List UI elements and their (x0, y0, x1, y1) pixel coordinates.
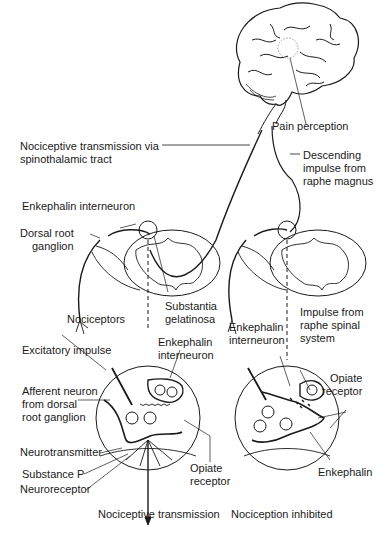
label-descending-1: Descending (303, 149, 361, 162)
synapse-right (235, 366, 339, 470)
label-nociceptive-tract-1: Nociceptive transmission via (20, 140, 159, 153)
label-substantia-2: gelatinosa (165, 313, 215, 326)
label-descending-3: raphe magnus (303, 175, 373, 188)
label-pain-perception: Pain perception (272, 120, 348, 133)
label-dorsal-root-2: ganglion (32, 240, 74, 253)
label-substance-p: Substance P (22, 468, 84, 481)
label-raphe-spinal-3: system (300, 332, 335, 345)
label-opiate-left-2: receptor (190, 475, 230, 488)
label-substantia-1: Substantia (165, 300, 217, 313)
label-enkephalin-left-2: interneuron (158, 349, 214, 362)
label-opiate-right-2: receptor (322, 385, 362, 398)
label-nociceptive-tract-2: spinothalamic tract (20, 153, 112, 166)
label-afferent-3: root ganglion (22, 411, 86, 424)
synapse-left (96, 366, 200, 525)
label-excitatory-impulse: Excitatory impulse (22, 344, 111, 357)
label-descending-2: impulse from (303, 162, 366, 175)
label-afferent-2: from dorsal (22, 398, 77, 411)
label-enkephalin-right-1: Enkephalin (229, 321, 283, 334)
label-opiate-left-1: Opiate (190, 462, 222, 475)
label-neuroreceptor: Neuroreceptor (20, 483, 90, 496)
brain-icon (236, 3, 358, 134)
label-dorsal-root-1: Dorsal root (20, 227, 74, 240)
label-enkephalin: Enkephalin (318, 466, 372, 479)
label-enkephalin-left-1: Enkephalin (158, 336, 212, 349)
label-enkephalin-right-2: interneuron (229, 334, 285, 347)
label-nociceptive-transmission: Nociceptive transmission (98, 508, 220, 521)
label-nociceptors: Nociceptors (67, 313, 125, 326)
label-raphe-spinal-1: Impulse from (300, 306, 364, 319)
label-nociception-inhibited: Nociception inhibited (231, 508, 333, 521)
label-afferent-1: Afferent neuron (22, 385, 98, 398)
label-neurotransmitter: Neurotransmitter (20, 446, 102, 459)
label-opiate-right-1: Opiate (330, 372, 362, 385)
label-enkephalin-interneuron-top: Enkephalin interneuron (22, 200, 135, 213)
label-raphe-spinal-2: raphe spinal (300, 319, 360, 332)
